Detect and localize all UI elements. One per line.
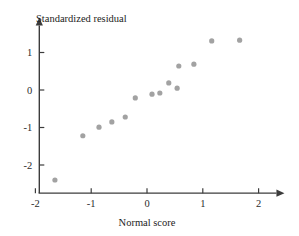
x-tick-label: -1 <box>87 198 96 209</box>
data-point <box>176 63 181 68</box>
x-axis-title: Normal score <box>119 217 176 228</box>
data-point <box>52 177 57 182</box>
data-point <box>175 86 180 91</box>
data-point <box>237 38 242 43</box>
x-tick-label: 1 <box>200 198 205 209</box>
y-tick-label: -1 <box>24 122 33 133</box>
data-point <box>157 90 162 95</box>
y-tick-label: 1 <box>27 47 32 58</box>
y-tick-label: 0 <box>27 85 32 96</box>
data-points-group <box>52 38 242 183</box>
data-point <box>133 95 138 100</box>
axes-group <box>36 18 285 197</box>
axis-tick-labels-group: -2-1012-2-101 <box>24 47 262 209</box>
data-point <box>209 38 214 43</box>
x-axis-arrow-icon <box>276 190 284 197</box>
x-tick-label: 0 <box>144 198 149 209</box>
plot-area: -2-1012-2-101 Standardized residual Norm… <box>0 0 299 236</box>
data-point <box>109 119 114 124</box>
data-point <box>123 114 128 119</box>
x-tick-label: 2 <box>256 198 261 209</box>
data-point <box>149 92 154 97</box>
axis-ticks-group <box>35 53 258 194</box>
data-point <box>166 80 171 85</box>
x-tick-label: -2 <box>31 198 40 209</box>
y-axis-title: Standardized residual <box>36 13 127 24</box>
data-point <box>191 62 196 67</box>
normal-probability-plot: -2-1012-2-101 Standardized residual Norm… <box>0 0 299 236</box>
y-tick-label: -2 <box>24 160 33 171</box>
data-point <box>80 133 85 138</box>
data-point <box>96 125 101 130</box>
